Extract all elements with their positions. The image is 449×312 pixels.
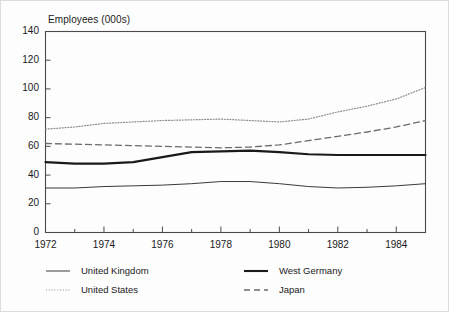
legend-label: Japan — [279, 284, 305, 295]
x-tick-label: 1976 — [142, 239, 182, 250]
series-line-united-kingdom — [46, 182, 426, 188]
chart-figure: Employees (000s) 020406080100120140 1972… — [0, 0, 449, 312]
y-tick-label: 40 — [5, 169, 39, 180]
x-tick-label: 1974 — [84, 239, 124, 250]
x-tick-label: 1972 — [26, 239, 66, 250]
legend-swatch-icon — [243, 263, 269, 279]
y-tick-label: 80 — [5, 111, 39, 122]
legend-swatch-icon — [45, 282, 71, 298]
y-tick-label: 100 — [5, 82, 39, 93]
series-line-japan — [46, 121, 426, 148]
legend-swatch-icon — [243, 282, 269, 298]
y-tick-label: 60 — [5, 140, 39, 151]
y-tick-label: 140 — [5, 25, 39, 36]
legend-label: West Germany — [279, 265, 342, 276]
y-tick-label: 20 — [5, 197, 39, 208]
legend-label: United Kingdom — [81, 265, 149, 276]
y-tick-label: 120 — [5, 54, 39, 65]
series-line-west-germany — [46, 151, 426, 164]
chart-legend: United KingdomWest GermanyUnited StatesJ… — [45, 263, 425, 303]
series-line-united-states — [46, 87, 426, 129]
legend-label: United States — [81, 284, 138, 295]
x-tick-label: 1980 — [259, 239, 299, 250]
legend-swatch-icon — [45, 263, 71, 279]
x-tick-label: 1978 — [201, 239, 241, 250]
x-tick-label: 1984 — [376, 239, 416, 250]
y-tick-label: 0 — [5, 226, 39, 237]
data-series-lines — [46, 87, 426, 188]
x-tick-label: 1982 — [318, 239, 358, 250]
